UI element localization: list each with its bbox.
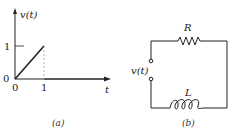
x-tick-label: 1 [41,82,47,93]
top-wire-left [151,41,178,59]
top-wire-right [200,41,227,108]
source-label: v(t) [131,65,149,76]
panel-a-plot: v(t) 1 0 0 1 t (a) [3,8,111,128]
y-axis-label: v(t) [20,9,38,20]
inductor-label: L [184,87,192,98]
terminal-top-icon [149,59,153,63]
bottom-wire-left [151,81,170,108]
panel-b-caption: (b) [182,118,195,128]
y-axis-arrow-icon [13,8,17,14]
panel-a-caption: (a) [52,118,65,128]
y-tick-label: 1 [4,41,10,52]
terminal-bottom-icon [149,77,153,81]
signal-ramp [15,46,44,79]
inductor-icon [170,100,205,109]
figure-canvas: v(t) 1 0 0 1 t (a) R v(t) L (b) [0,0,235,135]
resistor-label: R [183,22,192,33]
origin-x-label: 0 [12,82,18,93]
resistor-icon [178,37,200,45]
panel-b-circuit [149,37,227,109]
origin-y-label: 0 [3,73,9,84]
x-axis-label: t [105,84,110,95]
x-axis-arrow-icon [104,77,111,82]
